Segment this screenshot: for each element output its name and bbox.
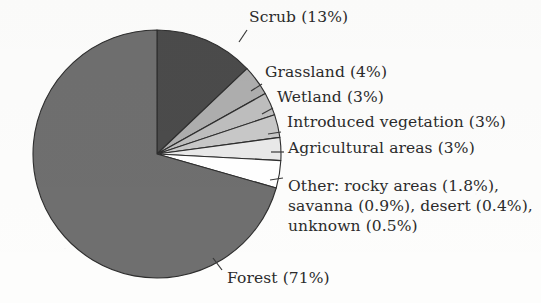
leader-line-scrub	[239, 30, 247, 42]
pie-label-introduced-vegetation: Introduced vegetation (3%)	[287, 113, 506, 132]
pie-label-other-line2: savanna (0.9%), desert (0.4%),	[288, 196, 538, 216]
pie-chart-figure: Scrub (13%) Grassland (4%) Wetland (3%) …	[0, 0, 541, 303]
pie-label-wetland: Wetland (3%)	[277, 88, 384, 107]
pie-label-agricultural-areas: Agricultural areas (3%)	[288, 139, 475, 158]
pie-label-other-line3: unknown (0.5%)	[288, 216, 538, 236]
pie-label-other: Other: rocky areas (1.8%), savanna (0.9%…	[288, 176, 538, 236]
pie-label-scrub: Scrub (13%)	[249, 8, 348, 27]
pie-label-forest: Forest (71%)	[227, 269, 330, 288]
pie-slices-group	[33, 30, 281, 278]
pie-label-other-line1: Other: rocky areas (1.8%),	[288, 176, 538, 196]
pie-label-grassland: Grassland (4%)	[265, 63, 387, 82]
